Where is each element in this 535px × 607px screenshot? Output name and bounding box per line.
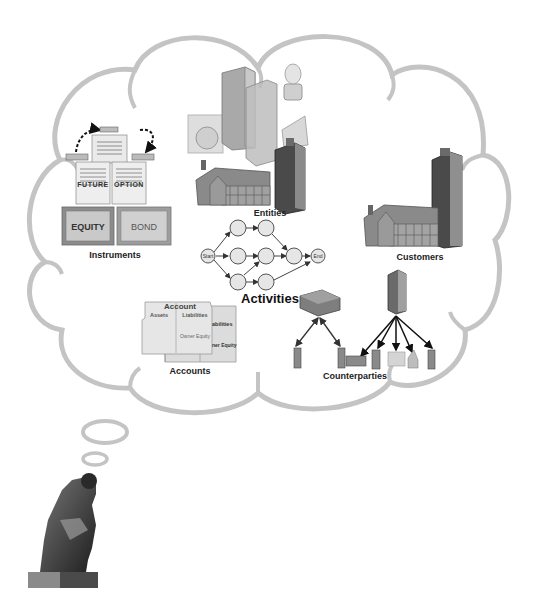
activity-end-label: End xyxy=(314,253,323,259)
instruments-label: Instruments xyxy=(80,250,150,260)
activities-label: Activities xyxy=(230,291,310,306)
liabilities-tab: Liabilities xyxy=(178,312,212,318)
future-label: FUTURE xyxy=(76,181,110,188)
thought-bubble-small xyxy=(83,453,107,465)
thought-bubble-large xyxy=(83,421,127,443)
back-owner-equity-label: ner Equity xyxy=(212,342,236,348)
customers-label: Customers xyxy=(380,252,460,262)
account-title: Account xyxy=(155,302,205,311)
equity-label: EQUITY xyxy=(66,222,110,232)
accounts-label: Accounts xyxy=(155,366,225,376)
bond-label: BOND xyxy=(121,222,167,232)
owner-equity-label: Owner Equity xyxy=(177,333,213,339)
thinker-statue xyxy=(28,473,98,588)
assets-tab: Assets xyxy=(142,312,176,318)
activity-start-label: Start xyxy=(203,253,214,259)
entities-label: Entities xyxy=(240,208,300,218)
back-liabilities-label: abilities xyxy=(212,321,236,327)
option-label: OPTION xyxy=(112,181,146,188)
counterparties-label: Counterparties xyxy=(320,371,390,381)
accounts-illustration xyxy=(142,302,236,362)
